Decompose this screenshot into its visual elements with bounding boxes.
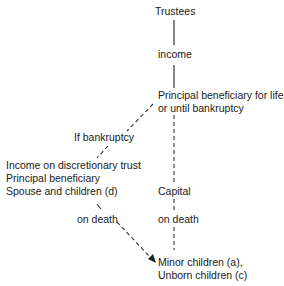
dashed-line-spouse-ondeath — [97, 204, 101, 209]
discretionary-trust-label-line1: Income on discretionary trust — [6, 159, 141, 172]
principal-beneficiary-label-line2: or until bankruptcy — [158, 102, 244, 115]
on-death-right-label: on death — [158, 213, 199, 226]
discretionary-trust-label-line2: Principal beneficiary — [6, 172, 100, 185]
discretionary-trust-label-line3: Spouse and children (d) — [6, 185, 118, 198]
on-death-left-label: on death — [77, 213, 118, 226]
principal-beneficiary-label-line1: Principal beneficiary for life — [158, 89, 283, 102]
dashed-line-bankruptcy-discretionary — [97, 146, 108, 158]
if-bankruptcy-label: If bankruptcy — [74, 131, 134, 144]
capital-label: Capital — [158, 185, 191, 198]
dashed-line-principal-bankruptcy — [127, 104, 153, 131]
dashed-arrow-ondeath-minor — [117, 222, 151, 258]
income-label: income — [158, 48, 192, 61]
trustees-label: Trustees — [155, 5, 195, 18]
minor-children-label-line1: Minor children (a), — [158, 256, 243, 269]
minor-children-label-line2: Unborn children (c) — [158, 269, 247, 282]
arrowhead-icon — [148, 254, 156, 263]
connector-lines — [0, 0, 284, 286]
